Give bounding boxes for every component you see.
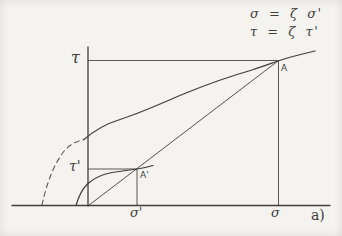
scaling-diagram-figure: σ = ζ σ' τ = ζ τ' τ τ' σ' σ A A' a) — [0, 0, 342, 236]
scaling-equations: σ = ζ σ' τ = ζ τ' — [250, 5, 323, 40]
sigma-prime-label: σ' — [130, 206, 142, 219]
sigma-label: σ — [271, 206, 280, 219]
point-a-prime-label: A' — [140, 171, 149, 180]
panel-label: a) — [311, 207, 325, 223]
scaling-line — [89, 61, 279, 206]
tau-label: τ — [71, 50, 80, 66]
point-a-label: A — [281, 64, 287, 73]
equation-tau: τ = ζ τ' — [250, 23, 323, 41]
equation-sigma: σ = ζ σ' — [250, 5, 323, 23]
tau-prime-label: τ' — [69, 159, 81, 173]
